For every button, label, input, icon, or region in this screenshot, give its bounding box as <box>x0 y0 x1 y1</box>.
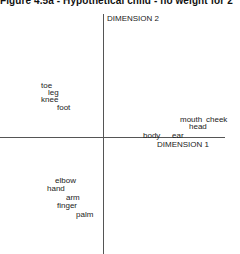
point-label-cheek: cheek <box>206 115 227 124</box>
horizontal-axis <box>0 137 225 138</box>
point-label-head: head <box>189 122 207 131</box>
chart-title: Figure 4.5a - Hypothetical child - no we… <box>0 0 240 6</box>
point-label-foot: foot <box>57 103 70 112</box>
dimension-1-label: DIMENSION 1 <box>157 140 209 149</box>
point-label-palm: palm <box>76 210 93 219</box>
vertical-axis <box>103 14 104 254</box>
dimension-2-label: DIMENSION 2 <box>107 14 159 23</box>
point-label-finger: finger <box>57 201 77 210</box>
point-label-ear: ear <box>172 131 184 140</box>
point-label-body: body <box>143 131 160 140</box>
point-label-knee: knee <box>41 95 58 104</box>
point-label-hand: hand <box>47 184 65 193</box>
